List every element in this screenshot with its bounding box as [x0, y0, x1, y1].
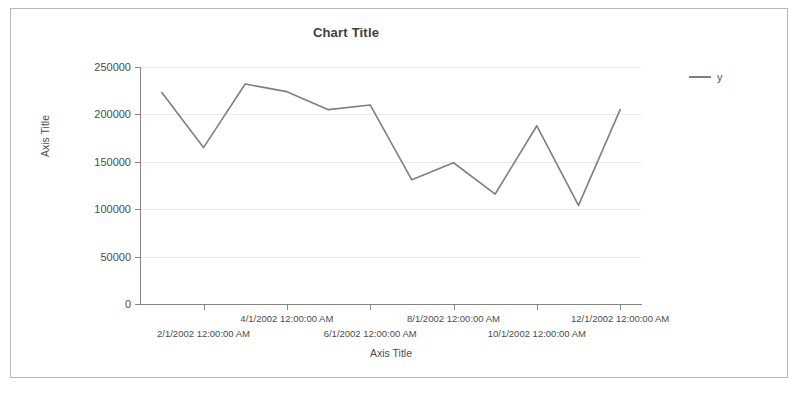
series-y-line[interactable]: [11, 9, 789, 379]
legend-label-y: y: [717, 71, 723, 83]
category-axis-title[interactable]: Axis Title: [141, 347, 641, 359]
plot-area[interactable]: 250000200000150000100000500000 2/1/2002 …: [11, 9, 789, 379]
legend[interactable]: y: [689, 71, 723, 83]
legend-swatch-y: [689, 76, 711, 78]
value-axis-title[interactable]: Axis Title: [39, 115, 51, 157]
chart-frame: Chart Title 2500002000001500001000005000…: [10, 8, 788, 378]
